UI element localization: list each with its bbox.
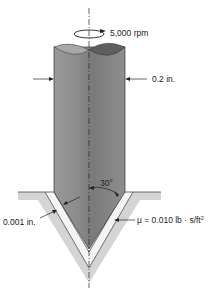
gap-label: 0.001 in.	[3, 217, 36, 227]
diameter-arrowhead-left-icon	[49, 77, 54, 81]
diameter-label: 0.2 in.	[152, 74, 175, 84]
viscosity-label-exp: 2	[201, 215, 204, 221]
viscosity-label: μ = 0.010 lb · s/ft2	[137, 215, 204, 225]
angle-label: 30°	[100, 178, 113, 188]
diagram-canvas: 5,000 rpm 0.2 in. 30° 0.001 in. μ = 0.01…	[0, 0, 217, 291]
viscosity-label-main: μ = 0.010 lb · s/ft	[137, 215, 201, 225]
speed-label: 5,000 rpm	[110, 28, 148, 38]
diameter-arrowhead-right-icon	[125, 77, 130, 81]
